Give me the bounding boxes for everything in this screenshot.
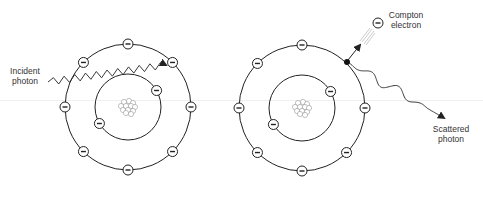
- electron: [94, 119, 104, 129]
- nucleus: [292, 99, 311, 117]
- electron: [252, 148, 262, 158]
- electron: [297, 166, 307, 176]
- electron: [60, 102, 70, 112]
- electron: [123, 165, 133, 175]
- electron: [123, 39, 133, 49]
- motion-streaks: [360, 28, 375, 45]
- label-line-1: Incident: [7, 66, 43, 76]
- atom-before-scattering: [60, 39, 196, 175]
- electron: [297, 40, 307, 50]
- scattered-photon-label: Scattered photon: [428, 124, 474, 144]
- incident-photon-label: Incident photon: [7, 66, 43, 86]
- atom-after-scattering: [234, 40, 370, 176]
- label-line-1: Compton: [384, 10, 428, 20]
- compton-electron-arrow: [348, 45, 360, 60]
- electron: [360, 103, 370, 113]
- electron: [186, 102, 196, 112]
- electron: [252, 58, 262, 68]
- nucleon: [128, 111, 133, 116]
- label-line-2: photon: [7, 76, 43, 86]
- electron: [268, 120, 278, 130]
- electron: [78, 147, 88, 157]
- electron: [342, 148, 352, 158]
- compton-electron: [373, 18, 383, 28]
- nucleus: [118, 98, 137, 116]
- electron: [152, 86, 162, 96]
- electron: [168, 57, 178, 67]
- label-line-1: Scattered: [428, 124, 474, 134]
- label-line-2: electron: [384, 20, 428, 30]
- ejection-point-dot: [344, 59, 350, 65]
- electron: [234, 103, 244, 113]
- nucleon: [302, 112, 307, 117]
- electron: [326, 87, 336, 97]
- electron: [168, 147, 178, 157]
- electron: [78, 57, 88, 67]
- label-line-2: photon: [428, 134, 474, 144]
- nucleon: [297, 111, 302, 116]
- compton-electron-label: Compton electron: [384, 10, 428, 30]
- nucleon: [123, 110, 128, 115]
